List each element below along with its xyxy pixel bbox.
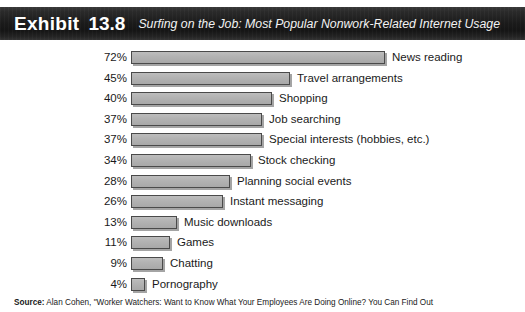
source-note: Source: Alan Cohen, "Worker Watchers: Wa…: [14, 298, 514, 308]
bar-fill: [131, 278, 145, 291]
exhibit-number: 13.8: [88, 13, 125, 35]
exhibit-subtitle: Surfing on the Job: Most Popular Nonwork…: [138, 17, 500, 31]
bar: [131, 175, 230, 188]
bar-category-label: Instant messaging: [230, 195, 323, 208]
bar-row: 4%Pornography: [0, 278, 525, 291]
bar-value-label: 34%: [80, 154, 127, 167]
exhibit-header-bar: Exhibit 13.8 Surfing on the Job: Most Po…: [0, 7, 525, 40]
bar-category-label: Special interests (hobbies, etc.): [269, 133, 429, 146]
bar-category-label: News reading: [392, 51, 462, 64]
bar-fill: [131, 216, 177, 229]
bar: [131, 51, 385, 64]
bar-row: 26%Instant messaging: [0, 195, 525, 208]
bar-row: 40%Shopping: [0, 92, 525, 105]
bar-row: 37%Special interests (hobbies, etc.): [0, 133, 525, 146]
bar-category-label: Pornography: [152, 278, 218, 291]
bar-fill: [131, 133, 262, 146]
bar-category-label: Shopping: [279, 92, 328, 105]
bar-category-label: Chatting: [170, 257, 213, 270]
bar-category-label: Stock checking: [258, 154, 335, 167]
bar: [131, 216, 177, 229]
bar-row: 72%News reading: [0, 51, 525, 64]
bar-fill: [131, 92, 272, 105]
bar-fill: [131, 113, 262, 126]
bar: [131, 113, 262, 126]
bar-row: 37%Job searching: [0, 113, 525, 126]
bar-row: 45%Travel arrangements: [0, 72, 525, 85]
bar: [131, 278, 145, 291]
exhibit-label: Exhibit: [14, 13, 79, 35]
bar: [131, 133, 262, 146]
bar-row: 13%Music downloads: [0, 216, 525, 229]
bar-category-label: Planning social events: [237, 175, 351, 188]
bar: [131, 72, 290, 85]
bar-fill: [131, 72, 290, 85]
bar-value-label: 37%: [80, 133, 127, 146]
bar-fill: [131, 175, 230, 188]
bar: [131, 257, 163, 270]
bar-value-label: 26%: [80, 195, 127, 208]
bar: [131, 236, 170, 249]
bar-value-label: 45%: [80, 72, 127, 85]
bar: [131, 154, 251, 167]
bar-value-label: 4%: [80, 278, 127, 291]
bar-fill: [131, 51, 385, 64]
bar-fill: [131, 154, 251, 167]
bar: [131, 92, 272, 105]
bar-row: 9%Chatting: [0, 257, 525, 270]
bar-value-label: 11%: [80, 236, 127, 249]
bar-fill: [131, 236, 170, 249]
bar-value-label: 13%: [80, 216, 127, 229]
bar-chart: 72%News reading45%Travel arrangements40%…: [0, 45, 525, 290]
source-label: Source:: [14, 298, 44, 307]
source-text: Alan Cohen, "Worker Watchers: Want to Kn…: [44, 298, 433, 307]
bar-category-label: Music downloads: [184, 216, 272, 229]
bar-row: 28%Planning social events: [0, 175, 525, 188]
bar-fill: [131, 257, 163, 270]
bar-category-label: Job searching: [269, 113, 341, 126]
bar-category-label: Travel arrangements: [297, 72, 403, 85]
bar-category-label: Games: [177, 236, 214, 249]
bar-value-label: 40%: [80, 92, 127, 105]
bar-value-label: 72%: [80, 51, 127, 64]
bar-row: 34%Stock checking: [0, 154, 525, 167]
bar-value-label: 28%: [80, 175, 127, 188]
bar-row: 11%Games: [0, 236, 525, 249]
bar-value-label: 37%: [80, 113, 127, 126]
bar-value-label: 9%: [80, 257, 127, 270]
bar: [131, 195, 223, 208]
bar-fill: [131, 195, 223, 208]
